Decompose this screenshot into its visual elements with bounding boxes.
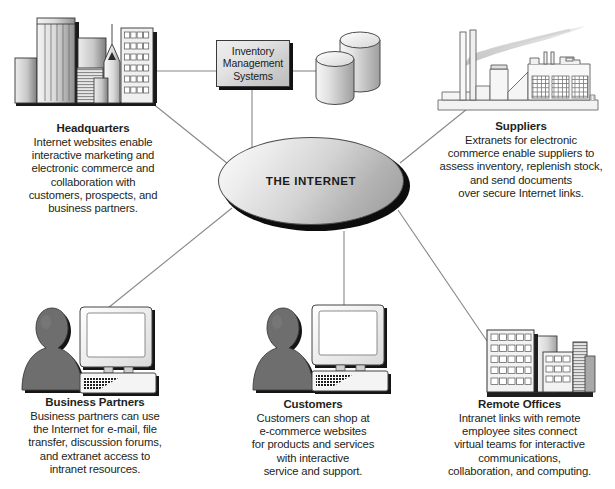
bp-desc-line-1: Business partners can use [0,410,190,423]
node-desc-business-partners: Business partners can use the Internet f… [0,410,190,476]
cust-desc-line-3: for products and services [228,438,398,451]
hq-desc-line-6: business partners. [0,202,186,215]
node-title-business-partners: Business Partners [0,396,190,408]
caption-headquarters: Headquarters Internet websites enable in… [0,122,186,215]
caption-suppliers: Suppliers Extranets for electronic comme… [427,120,615,200]
node-desc-headquarters: Internet websites enable interactive mar… [0,136,186,215]
ro-desc-line-2: employee sites connect [424,425,615,438]
cust-desc-line-2: e-commerce websites [228,425,398,438]
cust-desc-line-1: Customers can shop at [228,412,398,425]
node-desc-remote-offices: Intranet links with remote employee site… [424,412,615,478]
node-title-headquarters: Headquarters [0,122,186,134]
diagram-canvas: THE INTERNET Inventory Management System… [0,0,615,489]
bp-desc-line-2: the Internet for e-mail, file [0,423,190,436]
node-desc-suppliers: Extranets for electronic commerce enable… [427,134,615,200]
hq-desc-line-5: customers, prospects, and [0,189,186,202]
ro-desc-line-5: collaboration, and computing. [424,465,615,478]
hq-desc-line-2: interactive marketing and [0,149,186,162]
ro-desc-line-4: communications, [424,452,615,465]
cust-desc-line-4: with interactive [228,452,398,465]
sup-desc-line-2: commerce enable suppliers to [427,147,615,160]
cust-desc-line-5: service and support. [228,465,398,478]
ro-desc-line-3: virtual teams for interactive [424,438,615,451]
sup-desc-line-5: over secure Internet links. [427,187,615,200]
node-title-customers: Customers [228,398,398,410]
ro-desc-line-1: Intranet links with remote [424,412,615,425]
bp-desc-line-4: and extranet access to [0,450,190,463]
hq-desc-line-3: electronic commerce and [0,162,186,175]
caption-remote-offices: Remote Offices Intranet links with remot… [424,398,615,478]
bp-desc-line-5: intranet resources. [0,463,190,476]
bp-desc-line-3: transfer, discussion forums, [0,436,190,449]
captions-layer: Headquarters Internet websites enable in… [0,0,615,489]
sup-desc-line-1: Extranets for electronic [427,134,615,147]
sup-desc-line-3: assess inventory, replenish stock, [427,160,615,173]
hq-desc-line-4: collaboration with [0,176,186,189]
caption-customers: Customers Customers can shop at e-commer… [228,398,398,478]
node-title-suppliers: Suppliers [427,120,615,132]
caption-business-partners: Business Partners Business partners can … [0,396,190,476]
node-title-remote-offices: Remote Offices [424,398,615,410]
hq-desc-line-1: Internet websites enable [0,136,186,149]
sup-desc-line-4: and send documents [427,174,615,187]
node-desc-customers: Customers can shop at e-commerce website… [228,412,398,478]
